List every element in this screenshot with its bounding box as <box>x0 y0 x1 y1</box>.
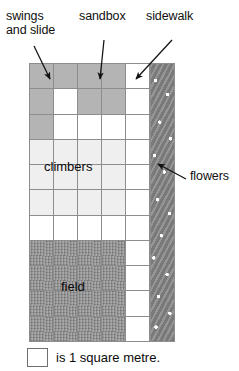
grid-cell-r6-c5 <box>126 190 150 215</box>
grid-cell-r3-c2 <box>54 115 78 140</box>
grid-cell-r1-c5 <box>126 64 150 89</box>
grid-cell-r8-c5 <box>126 241 150 266</box>
grid-cell-r5-c4 <box>102 165 126 190</box>
grid-cell-r5-c2 <box>54 165 78 190</box>
label-sandbox: sandbox <box>79 10 126 24</box>
grid-cell-r4-c3 <box>78 140 102 165</box>
grid-cell-r10-c1 <box>30 291 54 316</box>
grid-cell-r1-c2 <box>54 64 78 89</box>
grid-cell-r9-c4 <box>102 266 126 291</box>
grid-cell-r4-c2 <box>54 140 78 165</box>
grid-cell-r6-c3 <box>78 190 102 215</box>
grid-cell-r2-c2 <box>54 89 78 114</box>
white-square-icon <box>27 348 48 367</box>
grid-cell-r7-c5 <box>126 216 150 241</box>
grid-cell-r8-c3 <box>78 241 102 266</box>
grid-cell-r9-c1 <box>30 266 54 291</box>
grid-cell-r1-c3 <box>78 64 102 89</box>
label-swings-and-slide: swings and slide <box>6 10 55 37</box>
grid-cell-r7-c1 <box>30 216 54 241</box>
grid-cell-r1-c1 <box>30 64 54 89</box>
grid-cell-r1-c4 <box>102 64 126 89</box>
grid-cell-r9-c5 <box>126 266 150 291</box>
grid-cell-r9-c3 <box>78 266 102 291</box>
label-flowers: flowers <box>190 170 229 184</box>
grid-cell-r10-c5 <box>126 291 150 316</box>
grid-cell-r5-c3 <box>78 165 102 190</box>
grid-cell-r4-c5 <box>126 140 150 165</box>
grid-cell-r7-c2 <box>54 216 78 241</box>
flowers-strip <box>150 63 175 342</box>
grid-cell-r11-c5 <box>126 317 150 342</box>
label-sidewalk: sidewalk <box>146 10 193 24</box>
grid-cell-r6-c2 <box>54 190 78 215</box>
legend: is 1 square metre. <box>27 348 160 367</box>
grid-cell-r6-c4 <box>102 190 126 215</box>
legend-label: is 1 square metre. <box>56 350 160 365</box>
grid-cell-r11-c1 <box>30 317 54 342</box>
grid-cell-r6-c1 <box>30 190 54 215</box>
grid-cell-r5-c5 <box>126 165 150 190</box>
grid-cell-r11-c3 <box>78 317 102 342</box>
grid-cell-r3-c3 <box>78 115 102 140</box>
grid-cell-r7-c3 <box>78 216 102 241</box>
grid-cell-r2-c1 <box>30 89 54 114</box>
grid-cell-r10-c4 <box>102 291 126 316</box>
grid-cell-r8-c1 <box>30 241 54 266</box>
grid-cell-r5-c1 <box>30 165 54 190</box>
grid-cell-r11-c4 <box>102 317 126 342</box>
grid-cell-r2-c4 <box>102 89 126 114</box>
grid-cell-r4-c1 <box>30 140 54 165</box>
grid-cell-r2-c3 <box>78 89 102 114</box>
grid-cell-r3-c4 <box>102 115 126 140</box>
grid-cell-r8-c2 <box>54 241 78 266</box>
grid-cell-r3-c5 <box>126 115 150 140</box>
grid-cell-r10-c2 <box>54 291 78 316</box>
grid-cell-r7-c4 <box>102 216 126 241</box>
grid-cell-r11-c2 <box>54 317 78 342</box>
playground-map-figure: swings and slide sandbox sidewalk flower… <box>0 0 239 371</box>
grid-cell-r2-c5 <box>126 89 150 114</box>
grid-cell-r9-c2 <box>54 266 78 291</box>
grid-cell-r10-c3 <box>78 291 102 316</box>
grid-cell-r8-c4 <box>102 241 126 266</box>
grid-cell-r3-c1 <box>30 115 54 140</box>
map-grid <box>29 63 150 342</box>
grid-cell-r4-c4 <box>102 140 126 165</box>
